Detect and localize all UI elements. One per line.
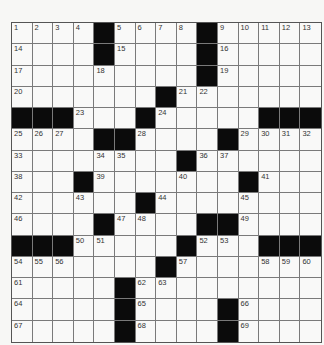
- crossword-cell[interactable]: 24: [156, 108, 177, 129]
- crossword-cell[interactable]: [218, 278, 239, 299]
- crossword-cell[interactable]: [33, 278, 54, 299]
- crossword-cell[interactable]: [53, 66, 74, 87]
- crossword-cell[interactable]: [280, 87, 301, 108]
- crossword-cell[interactable]: [74, 278, 95, 299]
- crossword-cell[interactable]: [53, 44, 74, 65]
- crossword-cell[interactable]: [177, 193, 198, 214]
- crossword-cell[interactable]: 37: [218, 151, 239, 172]
- crossword-cell[interactable]: [53, 214, 74, 235]
- crossword-cell[interactable]: [53, 87, 74, 108]
- crossword-cell[interactable]: [136, 44, 157, 65]
- crossword-cell[interactable]: [53, 172, 74, 193]
- crossword-cell[interactable]: [33, 151, 54, 172]
- crossword-cell[interactable]: [239, 44, 260, 65]
- crossword-cell[interactable]: 55: [33, 257, 54, 278]
- crossword-cell[interactable]: [74, 44, 95, 65]
- crossword-cell[interactable]: [156, 321, 177, 342]
- crossword-cell[interactable]: [197, 278, 218, 299]
- crossword-cell[interactable]: 30: [259, 129, 280, 150]
- crossword-cell[interactable]: [156, 172, 177, 193]
- crossword-cell[interactable]: 69: [239, 321, 260, 342]
- crossword-cell[interactable]: [280, 278, 301, 299]
- crossword-cell[interactable]: [197, 129, 218, 150]
- crossword-cell[interactable]: 32: [300, 129, 321, 150]
- crossword-cell[interactable]: 10: [239, 23, 260, 44]
- crossword-cell[interactable]: 57: [177, 257, 198, 278]
- crossword-cell[interactable]: [115, 236, 136, 257]
- crossword-cell[interactable]: [280, 193, 301, 214]
- crossword-cell[interactable]: 33: [12, 151, 33, 172]
- crossword-cell[interactable]: 62: [136, 278, 157, 299]
- crossword-cell[interactable]: 35: [115, 151, 136, 172]
- crossword-cell[interactable]: [33, 193, 54, 214]
- crossword-cell[interactable]: [300, 172, 321, 193]
- crossword-cell[interactable]: [74, 257, 95, 278]
- crossword-cell[interactable]: [156, 236, 177, 257]
- crossword-cell[interactable]: 8: [177, 23, 198, 44]
- crossword-cell[interactable]: [197, 108, 218, 129]
- crossword-cell[interactable]: [115, 108, 136, 129]
- crossword-cell[interactable]: [197, 172, 218, 193]
- crossword-cell[interactable]: [259, 44, 280, 65]
- crossword-cell[interactable]: [177, 214, 198, 235]
- crossword-cell[interactable]: [53, 151, 74, 172]
- crossword-cell[interactable]: 14: [12, 44, 33, 65]
- crossword-cell[interactable]: 52: [197, 236, 218, 257]
- crossword-cell[interactable]: [239, 87, 260, 108]
- crossword-cell[interactable]: 3: [53, 23, 74, 44]
- crossword-cell[interactable]: 5: [115, 23, 136, 44]
- crossword-cell[interactable]: [280, 44, 301, 65]
- crossword-cell[interactable]: [74, 151, 95, 172]
- crossword-cell[interactable]: 58: [259, 257, 280, 278]
- crossword-cell[interactable]: [136, 236, 157, 257]
- crossword-cell[interactable]: [115, 87, 136, 108]
- crossword-cell[interactable]: [53, 321, 74, 342]
- crossword-cell[interactable]: [197, 321, 218, 342]
- crossword-cell[interactable]: 44: [156, 193, 177, 214]
- crossword-cell[interactable]: [115, 193, 136, 214]
- crossword-cell[interactable]: [53, 193, 74, 214]
- crossword-cell[interactable]: 21: [177, 87, 198, 108]
- crossword-cell[interactable]: 1: [12, 23, 33, 44]
- crossword-cell[interactable]: [300, 299, 321, 320]
- crossword-cell[interactable]: 19: [218, 66, 239, 87]
- crossword-cell[interactable]: [239, 151, 260, 172]
- crossword-cell[interactable]: 60: [300, 257, 321, 278]
- crossword-cell[interactable]: 28: [136, 129, 157, 150]
- crossword-cell[interactable]: [94, 257, 115, 278]
- crossword-cell[interactable]: [218, 87, 239, 108]
- crossword-cell[interactable]: [177, 44, 198, 65]
- crossword-cell[interactable]: 54: [12, 257, 33, 278]
- crossword-cell[interactable]: 11: [259, 23, 280, 44]
- crossword-cell[interactable]: 48: [136, 214, 157, 235]
- crossword-cell[interactable]: 25: [12, 129, 33, 150]
- crossword-cell[interactable]: [156, 151, 177, 172]
- crossword-cell[interactable]: 15: [115, 44, 136, 65]
- crossword-cell[interactable]: [239, 236, 260, 257]
- crossword-cell[interactable]: [280, 321, 301, 342]
- crossword-cell[interactable]: [33, 66, 54, 87]
- crossword-cell[interactable]: [259, 66, 280, 87]
- crossword-cell[interactable]: 16: [218, 44, 239, 65]
- crossword-cell[interactable]: [33, 299, 54, 320]
- crossword-cell[interactable]: 50: [74, 236, 95, 257]
- crossword-cell[interactable]: [115, 257, 136, 278]
- crossword-cell[interactable]: 51: [94, 236, 115, 257]
- crossword-cell[interactable]: [280, 299, 301, 320]
- crossword-cell[interactable]: 7: [156, 23, 177, 44]
- crossword-cell[interactable]: [94, 321, 115, 342]
- crossword-cell[interactable]: [300, 66, 321, 87]
- crossword-cell[interactable]: 29: [239, 129, 260, 150]
- crossword-cell[interactable]: [259, 321, 280, 342]
- crossword-cell[interactable]: 56: [53, 257, 74, 278]
- crossword-cell[interactable]: [259, 87, 280, 108]
- crossword-cell[interactable]: [259, 151, 280, 172]
- crossword-cell[interactable]: [280, 66, 301, 87]
- crossword-cell[interactable]: 18: [94, 66, 115, 87]
- crossword-cell[interactable]: [239, 66, 260, 87]
- crossword-cell[interactable]: 43: [74, 193, 95, 214]
- crossword-cell[interactable]: [33, 214, 54, 235]
- crossword-cell[interactable]: 38: [12, 172, 33, 193]
- crossword-cell[interactable]: 49: [239, 214, 260, 235]
- crossword-cell[interactable]: [53, 278, 74, 299]
